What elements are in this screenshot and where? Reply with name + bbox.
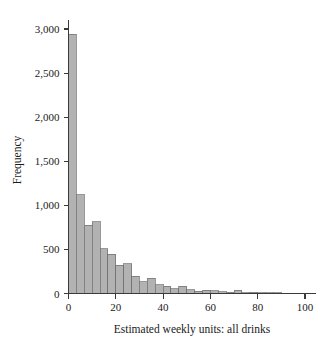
histogram-bar [116,265,124,293]
histogram-bar [163,286,171,293]
histogram-bar [84,225,92,293]
y-tick-label: 2,000 [35,111,60,123]
x-tick-label: 80 [252,301,264,313]
y-tick-label: 0 [54,288,60,300]
histogram-bar [171,289,179,294]
histogram-bar [69,34,77,293]
histogram-bar [147,278,155,293]
x-tick-label: 100 [297,301,314,313]
y-tick-label: 1,000 [35,199,60,211]
x-tick-label: 0 [66,301,72,313]
histogram-bar [132,276,140,293]
y-tick-label: 1,500 [35,155,60,167]
x-tick-label: 20 [110,301,122,313]
y-tick-label: 500 [43,243,60,255]
histogram-bar [155,285,163,294]
histogram-bar [124,264,132,294]
histogram-bar [100,249,108,294]
histogram-bar [92,222,100,294]
histogram-bar [76,195,84,294]
histogram-bar [179,286,187,293]
histogram-bar [187,290,195,294]
histogram-plot: 05001,0001,5002,0002,5003,000 0204060801… [0,0,324,343]
histogram-figure: 05001,0001,5002,0002,5003,000 0204060801… [0,0,324,343]
x-axis-title: Estimated weekly units: all drinks [114,323,271,336]
y-tick-label: 2,500 [35,67,60,79]
x-tick-label: 60 [205,301,217,313]
histogram-bar [139,282,147,294]
histogram-bar [108,254,116,293]
y-axis-title: Frequency [11,135,24,184]
y-tick-label: 3,000 [35,23,60,35]
x-tick-label: 40 [158,301,170,313]
